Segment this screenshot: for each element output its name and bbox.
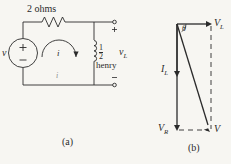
figure-drawing [0,0,231,164]
branch-current-label: i [56,72,58,80]
phasor-label-vl: VL [214,18,224,31]
source-voltage-label: v [2,48,6,58]
phasor-vr-sub: R [164,128,168,135]
mesh-current-arrowhead [73,51,78,57]
output-voltage-sub: L [123,52,127,59]
resistor-value-label: 2 ohms [27,4,56,14]
inductor-unit-label: henry [96,61,117,70]
phasor-label-il: IL [161,64,168,77]
output-voltage-label: vL [119,47,127,60]
caption-b: (b) [188,142,200,153]
phasor-label-vr: VR [158,123,168,136]
caption-a: (a) [62,136,73,147]
vector-v-line [177,24,208,125]
phasor-diagram [174,21,212,132]
phasor-il-sub: L [164,69,168,76]
resistor-symbol [39,17,68,27]
phasor-angle-label: θ [182,25,186,33]
inductor-numerator: 1 [99,44,103,52]
phasor-vl-sub: L [220,23,224,30]
voltage-source-circle [9,39,38,68]
terminal-bottom-circle [113,83,117,87]
phasor-label-v: V [214,124,220,134]
source-plus-sign [20,44,27,51]
figure-container: v 2 ohms 1 2 henry i i vL (a) θ VL IL VR… [0,0,231,164]
mesh-current-label: i [57,49,60,58]
terminal-plus-sign [112,27,117,32]
terminal-top-circle [113,20,117,24]
